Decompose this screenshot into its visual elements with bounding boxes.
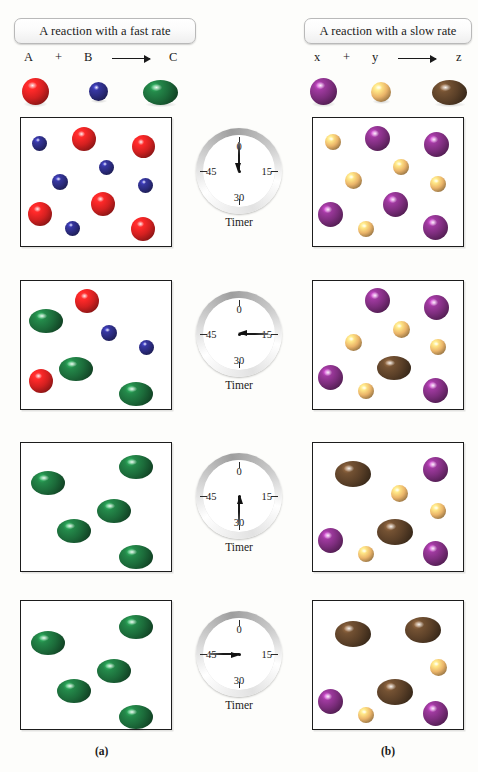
molecule: [57, 679, 91, 703]
drop-shadow: [32, 330, 61, 335]
molecule: [52, 174, 68, 190]
specular-highlight: [97, 196, 104, 202]
drop-shadow: [320, 387, 342, 393]
specular-highlight: [349, 337, 354, 341]
eq-left-plus: +: [55, 50, 62, 65]
timer-15: 0153045Timer: [196, 291, 282, 377]
timer-tick-label-15: 15: [262, 649, 273, 660]
molecule: [345, 172, 362, 189]
eq-right-product: z: [456, 50, 462, 65]
timer-hand-pivot: [238, 495, 241, 498]
molecule: [318, 528, 343, 553]
molecule: [91, 192, 115, 216]
drop-shadow: [431, 190, 445, 194]
molecule: [29, 369, 53, 393]
drop-shadow: [134, 155, 154, 160]
molecule: [423, 701, 448, 726]
timer-tick-label-45: 45: [206, 329, 217, 340]
drop-shadow: [122, 476, 151, 481]
tick-15: [271, 334, 278, 335]
specular-highlight: [429, 382, 437, 389]
drop-shadow: [380, 702, 411, 708]
drop-shadow: [33, 149, 46, 152]
drop-shadow: [31, 390, 52, 395]
drop-shadow: [359, 235, 373, 239]
molecule: [99, 160, 114, 175]
molecule: [318, 365, 343, 390]
specular-highlight: [69, 223, 74, 227]
drop-shadow: [392, 500, 407, 504]
drop-shadow: [380, 542, 411, 548]
molecule: [358, 221, 374, 237]
drop-shadow: [426, 317, 448, 323]
molecule: [57, 519, 91, 543]
timer-label: Timer: [196, 216, 282, 228]
molecule: [29, 309, 63, 333]
specular-highlight: [434, 342, 439, 346]
specular-highlight: [362, 710, 367, 714]
drop-shadow: [394, 336, 409, 340]
molecule: [72, 127, 96, 151]
molecule: [132, 135, 155, 158]
drop-shadow: [93, 213, 114, 218]
specular-highlight: [36, 138, 41, 142]
molecule: [365, 288, 390, 313]
specular-highlight: [344, 465, 355, 472]
molecule: [423, 378, 448, 403]
drop-shadow: [320, 224, 342, 230]
molecule: [365, 126, 390, 151]
specular-highlight: [56, 177, 61, 181]
reaction-box-b-30: [312, 442, 464, 572]
specular-highlight: [324, 532, 332, 539]
drop-shadow: [30, 223, 51, 228]
drop-shadow: [326, 148, 340, 152]
specular-highlight: [430, 136, 438, 143]
specular-highlight: [142, 180, 147, 184]
eq-left-product: C: [169, 50, 177, 65]
molecule: [405, 617, 441, 643]
specular-highlight: [397, 324, 402, 328]
specular-highlight: [395, 488, 400, 492]
specular-highlight: [37, 313, 47, 319]
molecule: [75, 289, 99, 313]
molecule: [345, 334, 362, 351]
molecule: [335, 461, 371, 487]
drop-shadow: [122, 403, 151, 408]
timer-label: Timer: [196, 379, 282, 391]
drop-shadow: [408, 640, 439, 646]
molecule: [358, 546, 374, 562]
molecule: [119, 545, 153, 569]
drop-shadow: [77, 310, 98, 315]
molecule: [31, 471, 65, 495]
timer-30: 0153045Timer: [196, 453, 282, 539]
molecule: [358, 383, 374, 399]
molecule: [424, 295, 449, 320]
legend-molecule-x: [310, 78, 337, 105]
drop-shadow: [359, 560, 373, 564]
equation-right: x + y z: [304, 50, 474, 68]
legend-molecule-y: [371, 82, 391, 102]
specular-highlight: [137, 221, 144, 227]
tick-15: [271, 171, 278, 172]
drop-shadow: [346, 349, 361, 353]
reaction-box-b-0: [312, 117, 464, 247]
specular-highlight: [39, 475, 49, 481]
drop-shadow: [122, 566, 151, 571]
specular-highlight: [362, 386, 367, 390]
molecule: [101, 325, 117, 341]
reaction-box-a-30: [20, 442, 172, 572]
specular-highlight: [429, 545, 437, 552]
molecule: [393, 321, 410, 338]
specular-highlight: [389, 196, 397, 203]
timer-hand-pivot: [238, 333, 241, 336]
specular-highlight: [103, 162, 108, 166]
eq-right-arrow-icon: [398, 58, 436, 59]
drop-shadow: [133, 238, 154, 243]
drop-shadow: [66, 234, 79, 237]
timer-tick-label-45: 45: [206, 166, 217, 177]
molecule: [325, 134, 341, 150]
molecule: [131, 217, 155, 241]
molecule: [423, 215, 448, 240]
molecule: [424, 132, 449, 157]
drop-shadow: [312, 101, 335, 107]
